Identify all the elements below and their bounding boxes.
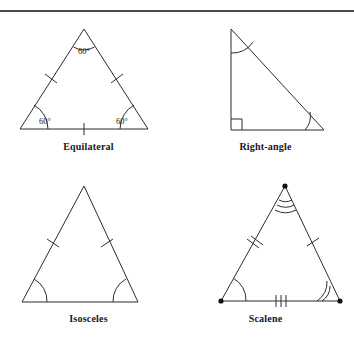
- scalene-triangle-outline: [221, 186, 340, 301]
- bottom-left-vertex-dot: [218, 298, 223, 303]
- isosceles-triangle-outline: [22, 186, 138, 302]
- bottom-right-angle-label: 60°: [116, 116, 128, 126]
- equilateral-triangle-outline: [20, 29, 148, 129]
- apex-angle-arc-1: [279, 200, 292, 202]
- bottom-left-angle-arc-1: [233, 278, 246, 301]
- caption-equilateral: Equilateral: [0, 141, 177, 152]
- triangle-types-figure: 60° 60° 60° Equilateral Right-angle: [0, 0, 354, 346]
- apex-angle-arc-3: [275, 210, 296, 213]
- left-side-tick: [47, 239, 59, 247]
- right-side-tick: [111, 74, 123, 83]
- caption-isosceles: Isosceles: [0, 313, 177, 324]
- panel-isosceles: Isosceles: [0, 173, 177, 346]
- caption-right-angle: Right-angle: [177, 141, 354, 152]
- apex-angle-label: 60°: [78, 46, 90, 56]
- bottom-left-angle-arc: [34, 279, 47, 302]
- left-side-tick: [45, 74, 57, 83]
- bottom-left-angle-label: 60°: [39, 116, 51, 126]
- panel-scalene: Scalene: [177, 173, 354, 346]
- bottom-right-angle-arc: [113, 279, 126, 302]
- bottom-right-vertex-dot: [337, 298, 342, 303]
- right-side-tick: [101, 239, 113, 247]
- right-angle-square-marker: [231, 119, 242, 130]
- panel-right-angle: Right-angle: [177, 0, 354, 173]
- top-left-angle-arc: [231, 42, 253, 53]
- apex-angle-arc-2: [277, 205, 294, 207]
- panel-equilateral: 60° 60° 60° Equilateral: [0, 0, 177, 173]
- apex-vertex-dot: [282, 183, 287, 188]
- caption-scalene: Scalene: [177, 313, 354, 324]
